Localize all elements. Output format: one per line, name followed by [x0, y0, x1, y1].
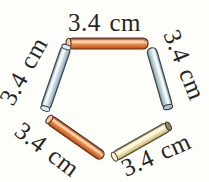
rod-top-orange — [66, 38, 148, 49]
pentagon-rods-svg: 3.4 cm 3.4 cm 3.4 cm 3.4 cm 3.4 cm — [0, 0, 209, 182]
side-label-lower-left: 3.4 cm — [10, 116, 85, 182]
pentagon-figure: 3.4 cm 3.4 cm 3.4 cm 3.4 cm 3.4 cm — [0, 0, 209, 182]
side-label-top: 3.4 cm — [68, 9, 141, 36]
